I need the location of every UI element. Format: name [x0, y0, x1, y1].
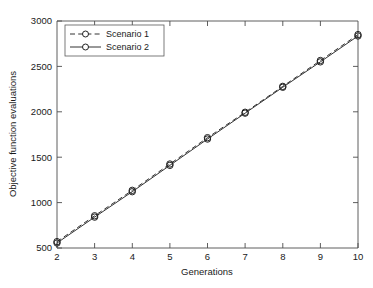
x-tick-label: 8 [280, 251, 285, 262]
legend-marker-circle [83, 31, 89, 37]
x-tick-label: 3 [92, 251, 97, 262]
line-chart: 500 1000 1500 2000 2500 3000 2 3 4 5 6 7… [0, 0, 373, 288]
chart-legend[interactable]: Scenario 1 Scenario 2 [65, 25, 164, 56]
y-tick-label: 1000 [31, 197, 52, 208]
x-tick-label: 10 [353, 251, 364, 262]
legend-label: Scenario 1 [106, 29, 149, 39]
chart-figure: 500 1000 1500 2000 2500 3000 2 3 4 5 6 7… [0, 0, 373, 288]
legend-label: Scenario 2 [106, 42, 149, 52]
x-tick-label: 9 [318, 251, 323, 262]
x-tick-label: 4 [130, 251, 135, 262]
x-tick-label: 5 [167, 251, 172, 262]
x-tick-label: 7 [242, 251, 247, 262]
legend-marker-circle [83, 44, 89, 50]
y-tick-label: 3000 [31, 15, 52, 26]
x-tick-label: 2 [54, 251, 59, 262]
x-axis-title: Generations [181, 266, 233, 277]
y-tick-label: 1500 [31, 152, 52, 163]
y-tick-label: 500 [36, 242, 52, 253]
y-tick-label: 2000 [31, 106, 52, 117]
y-axis-title: Objective function evaluations [7, 71, 18, 197]
y-tick-label: 2500 [31, 61, 52, 72]
x-tick-label: 6 [205, 251, 210, 262]
y-tick-labels: 500 1000 1500 2000 2500 3000 [31, 15, 52, 253]
x-tick-labels: 2 3 4 5 6 7 8 9 10 [54, 251, 363, 262]
